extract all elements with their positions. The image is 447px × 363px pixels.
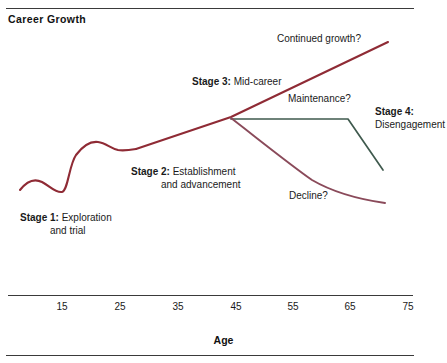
annotation-stage-2: Stage 2: Establishment and advancement [131, 166, 241, 191]
curve-exploration-and-trial [20, 142, 136, 192]
stage-2-key: Stage 2: [131, 166, 170, 177]
stage-4-key: Stage 4: [375, 106, 414, 117]
x-axis-tick-2: 35 [172, 301, 183, 312]
x-axis-line [8, 295, 413, 296]
annotation-stage-1: Stage 1: Exploration and trial [20, 212, 112, 237]
annotation-maintenance: Maintenance? [288, 93, 351, 106]
stage-4-label: Disengagement [375, 119, 445, 132]
x-axis-tick-0: 15 [56, 301, 67, 312]
annotation-stage-3: Stage 3: Mid-career [192, 76, 281, 89]
career-growth-figure: Career Growth Continued growth? Stage 3:… [0, 0, 447, 363]
line-maintenance-and-disengagement [231, 119, 383, 170]
stage-2-label-line1: Establishment [173, 166, 236, 177]
x-axis-tick-5: 65 [344, 301, 355, 312]
stage-1-label-line1: Exploration [62, 212, 112, 223]
x-axis-tick-4: 55 [287, 301, 298, 312]
annotation-stage-4: Stage 4: Disengagement [375, 106, 445, 131]
x-axis-tick-1: 25 [114, 301, 125, 312]
bottom-divider-rule [6, 355, 414, 356]
stage-3-label: Mid-career [234, 76, 282, 87]
stage-2-label-line2: and advancement [131, 179, 241, 192]
annotation-continued-growth: Continued growth? [277, 33, 361, 46]
stage-1-key: Stage 1: [20, 212, 59, 223]
x-axis-title: Age [0, 334, 447, 346]
stage-3-key: Stage 3: [192, 76, 231, 87]
x-axis-tick-6: 75 [402, 301, 413, 312]
stage-1-label-line2: and trial [20, 225, 112, 238]
annotation-decline: Decline? [289, 190, 328, 203]
x-axis-tick-3: 45 [230, 301, 241, 312]
